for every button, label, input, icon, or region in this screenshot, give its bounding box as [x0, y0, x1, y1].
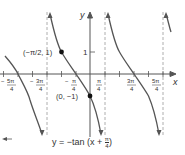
x-tick-labels: −5π 4 −3π 4 −π 4 π 4 3π 4 5π 4: [1, 78, 161, 92]
y-axis-arrow-icon: [88, 12, 93, 18]
axes: [0, 12, 176, 137]
tick-label-neg-5pi-4: −5π 4: [1, 78, 16, 92]
graph-canvas: y x 1 (−π/2, 1) (0, −1) −5π 4 −3π 4 −π 4…: [0, 0, 185, 155]
svg-text:−: −: [65, 78, 69, 84]
svg-text:4: 4: [155, 86, 159, 92]
svg-text:4: 4: [10, 86, 14, 92]
arrow-up-icon: [106, 12, 111, 18]
tick-label-5pi-4: 5π 4: [152, 78, 161, 92]
tick-label-pi-4: π 4: [96, 78, 102, 92]
caption-suffix: ): [109, 137, 112, 147]
svg-text:−: −: [30, 78, 34, 84]
function-caption: y = −tan (x + π4): [52, 136, 112, 149]
curve-branch-1: [5, 56, 42, 134]
arrow-up-icon: [164, 12, 169, 18]
caption-prefix: y = −tan (x +: [52, 137, 105, 147]
x-axis-label: x: [172, 77, 178, 87]
svg-text:3π: 3π: [127, 78, 134, 84]
tick-label-neg-3pi-4: −3π 4: [30, 78, 45, 92]
point-label-a: (−π/2, 1): [23, 48, 53, 57]
svg-text:4: 4: [39, 86, 43, 92]
svg-text:π: π: [97, 78, 101, 84]
y-axis-label: y: [79, 10, 85, 20]
point-label-b: (0, −1): [56, 92, 78, 101]
svg-text:5π: 5π: [7, 78, 14, 84]
point-0-neg-1: [88, 94, 93, 99]
y-tick-label-1: 1: [83, 48, 88, 57]
svg-text:4: 4: [130, 86, 134, 92]
tick-label-neg-pi-4: −π 4: [65, 78, 77, 92]
svg-text:4: 4: [97, 86, 101, 92]
point-neg-pi-2-1: [59, 50, 64, 55]
arrow-down-icon: [157, 130, 162, 136]
svg-text:3π: 3π: [36, 78, 43, 84]
tick-label-3pi-4: 3π 4: [127, 78, 136, 92]
arrow-down-icon: [40, 130, 45, 136]
svg-text:−: −: [1, 78, 5, 84]
svg-text:5π: 5π: [152, 78, 159, 84]
x-axis-arrow-icon: [170, 72, 176, 77]
svg-text:π: π: [72, 78, 76, 84]
curve-arrows: [2, 12, 169, 141]
arrow-up-icon: [48, 12, 53, 18]
